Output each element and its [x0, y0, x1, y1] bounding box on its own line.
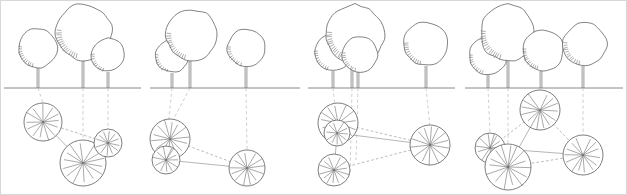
trunk-tree-d: [582, 66, 584, 88]
trunk-tree-b: [189, 61, 191, 88]
trunk-tree-c: [357, 72, 359, 88]
canopy-outline: [227, 29, 265, 66]
canopy-tree-a: [18, 29, 57, 69]
trunk-tree-c: [107, 72, 109, 88]
panel-1: [4, 4, 141, 186]
root-plan-root-c-panel-2: [229, 150, 265, 186]
panel-2: [150, 10, 300, 186]
canopy-tree-c: [342, 37, 378, 73]
canopy-outline: [19, 29, 58, 69]
root-plan-root-c-panel-4: [520, 90, 560, 130]
trunk-tree-c: [245, 67, 247, 88]
canopy-outline: [562, 22, 607, 65]
projection-line: [426, 88, 430, 127]
canopy-outline: [342, 37, 378, 73]
canopy-tree-d: [403, 22, 447, 65]
root-plan-root-d-panel-2: [152, 146, 180, 174]
trunk-tree-b: [507, 61, 509, 88]
panel-3: [308, 4, 455, 186]
trunk-tree-d: [425, 66, 427, 88]
root-plan-root-d-panel-4: [563, 135, 603, 175]
projection-line: [246, 88, 247, 150]
trunk-tree-a: [332, 71, 334, 88]
root-plan-root-a-panel-1: [24, 103, 62, 141]
root-plan-root-b-panel-4: [485, 144, 531, 190]
root-plan-root-c-panel-1: [94, 129, 122, 157]
figure-root: [0, 0, 627, 195]
projection-line: [488, 88, 490, 133]
canopy-outline: [404, 22, 448, 65]
trunk-tree-c: [540, 71, 542, 88]
trunk-tree-a: [487, 75, 489, 88]
root-plan-root-d-panel-3: [410, 125, 450, 165]
panel-4: [465, 4, 623, 190]
root-plan-root-c-panel-3: [318, 154, 350, 186]
trunk-tree-a: [171, 73, 173, 88]
panels-layer: [4, 4, 623, 190]
canopy-tree-c: [227, 29, 265, 66]
trunk-tree-a: [37, 68, 39, 88]
canopy-tree-d: [562, 22, 607, 65]
trunk-tree-b: [82, 60, 84, 88]
canopy-outline: [523, 30, 563, 71]
root-plan-root-e-panel-3: [324, 120, 350, 146]
canopy-tree-c: [522, 30, 563, 71]
projection-line: [38, 88, 43, 103]
projection-line: [172, 88, 190, 122]
figure-canvas: [0, 0, 627, 195]
